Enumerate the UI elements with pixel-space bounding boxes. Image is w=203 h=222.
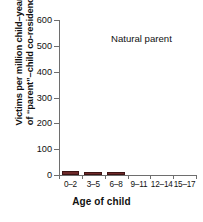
y-axis-tick-label: 500 <box>26 41 52 51</box>
y-axis-tick <box>54 46 59 47</box>
x-axis-tick <box>173 175 174 179</box>
bar <box>84 172 102 175</box>
y-axis-tick-label: 200 <box>26 118 52 128</box>
x-axis-title: Age of child <box>0 196 203 207</box>
x-axis-category-label: 15–17 <box>174 180 196 189</box>
x-axis-category-label: 0–2 <box>64 180 77 189</box>
y-axis-tick-label: 300 <box>26 93 52 103</box>
x-axis-tick <box>105 175 106 179</box>
y-axis-tick <box>54 72 59 73</box>
y-axis-tick <box>54 123 59 124</box>
x-axis-category-label: 12–14 <box>151 180 173 189</box>
bar <box>107 172 125 175</box>
bar-chart-figure: Victims per million child–years of “pare… <box>0 0 203 222</box>
y-axis-tick-label: 400 <box>26 67 52 77</box>
y-axis-line <box>59 20 60 176</box>
x-axis-category-label: 6–8 <box>110 180 123 189</box>
y-axis-tick <box>54 149 59 150</box>
y-axis-title-line-1: Victims per million child–years <box>13 0 24 125</box>
x-axis-tick <box>128 175 129 179</box>
y-axis-tick <box>54 98 59 99</box>
bar <box>62 171 80 175</box>
chart-annotation-natural-parent: Natural parent <box>111 33 172 44</box>
x-axis-tick <box>150 175 151 179</box>
x-axis-category-label: 3–5 <box>87 180 100 189</box>
x-axis-tick <box>82 175 83 179</box>
y-axis-tick-label: 0 <box>26 170 52 180</box>
y-axis-tick-label: 100 <box>26 144 52 154</box>
x-axis-tick <box>196 175 197 179</box>
y-axis-tick-label: 600 <box>26 15 52 25</box>
x-axis-tick <box>59 175 60 179</box>
y-axis-tick <box>54 20 59 21</box>
x-axis-category-label: 9–11 <box>131 180 148 189</box>
